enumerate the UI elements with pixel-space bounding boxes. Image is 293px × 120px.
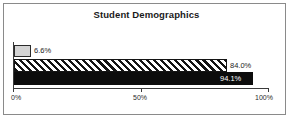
bar-series-1: [14, 45, 31, 57]
bar-series-3: [14, 72, 253, 85]
x-tick-label-100: 100%: [255, 94, 273, 101]
bar-value-label-1: 6.6%: [34, 47, 51, 55]
bar-value-label-2: 84.0%: [230, 62, 251, 70]
chart-title: Student Demographics: [0, 9, 293, 20]
x-tick-mark-50: [141, 89, 142, 92]
x-tick-mark-0: [13, 89, 14, 92]
x-tick-label-0: 0%: [11, 94, 21, 101]
bar-value-label-3: 94.1%: [220, 75, 241, 83]
bar-series-2: [14, 59, 227, 72]
x-tick-label-50: 50%: [133, 94, 147, 101]
x-tick-mark-100: [268, 89, 269, 92]
chart-figure: Student Demographics 0% 50% 100% 6.6% 84…: [0, 0, 293, 120]
